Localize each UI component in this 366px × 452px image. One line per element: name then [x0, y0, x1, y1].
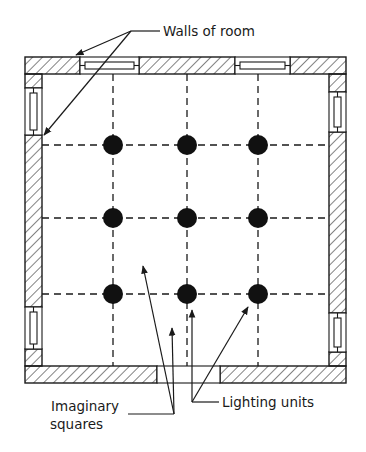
wall-top-middle [139, 57, 235, 74]
wall-right-top [329, 74, 346, 92]
window-left-1 [25, 88, 42, 135]
arrow-to-unit-right [192, 307, 248, 402]
window-right-1 [329, 92, 346, 132]
lighting-unit [248, 135, 268, 155]
wall-bottom-right [220, 366, 346, 383]
arrow-to-top-wall [76, 31, 131, 55]
wall-top-right [290, 57, 346, 74]
window-left-2 [25, 307, 42, 349]
wall-top-left [25, 57, 80, 74]
label-lighting-units: Lighting units [222, 394, 314, 410]
lighting-unit [103, 208, 123, 228]
arrow-to-square-1 [143, 266, 174, 414]
wall-left-middle [25, 135, 42, 307]
room-lighting-diagram: Walls of room Imaginary squares Lighting… [0, 0, 366, 452]
wall-bottom-left [25, 366, 157, 383]
label-squares: squares [50, 416, 103, 432]
label-walls-of-room: Walls of room [163, 23, 255, 39]
wall-left-top [25, 74, 42, 88]
lighting-unit [177, 135, 197, 155]
wall-right-middle [329, 132, 346, 313]
window-top-2 [235, 57, 290, 74]
wall-left-bottom [25, 349, 42, 366]
lighting-unit [177, 284, 197, 304]
callout-imaginary-squares [128, 266, 174, 414]
lighting-units [103, 135, 268, 304]
callout-lighting-units [192, 307, 248, 402]
arrow-to-left-wall [44, 31, 131, 135]
lighting-unit [103, 135, 123, 155]
window-right-2 [329, 313, 346, 352]
lighting-unit [248, 284, 268, 304]
window-top-1 [80, 57, 139, 74]
wall-right-bottom [329, 352, 346, 366]
lighting-unit [177, 208, 197, 228]
lighting-unit [248, 208, 268, 228]
callout-walls [44, 31, 160, 135]
label-imaginary: Imaginary [51, 398, 119, 414]
lighting-unit [103, 284, 123, 304]
